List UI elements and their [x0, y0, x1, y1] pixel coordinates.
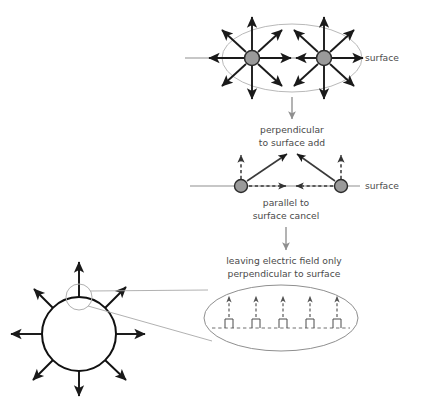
caption-perpendicular-line2: to surface add [259, 137, 325, 148]
charge-left-top [245, 51, 260, 66]
panel-middle: perpendicular to surface add s [190, 124, 399, 221]
diagram-canvas: surface perpendicular to surface add [0, 0, 424, 400]
charge-right-middle [335, 180, 348, 193]
charge-left-middle [235, 180, 248, 193]
conductor-sphere [42, 297, 116, 371]
magnified-surface-ellipse [204, 285, 358, 351]
diagram-root: surface perpendicular to surface add [0, 0, 424, 400]
surface-label-top: surface [365, 52, 399, 63]
panel-top: surface [185, 17, 399, 99]
caption-perpendicular-line1: perpendicular [260, 124, 324, 135]
caption-leaving-field-line1: leaving electric field only [226, 255, 342, 266]
caption-leaving-field-line2: perpendicular to surface [228, 268, 341, 279]
charge-right-top [317, 51, 332, 66]
resultant-arrows-middle [247, 154, 335, 181]
panel-bottom: leaving electric field only perpendicula… [11, 255, 358, 396]
surface-label-middle: surface [365, 180, 399, 191]
caption-parallel-line2: surface cancel [253, 210, 320, 221]
caption-parallel-line1: parallel to [263, 197, 310, 208]
